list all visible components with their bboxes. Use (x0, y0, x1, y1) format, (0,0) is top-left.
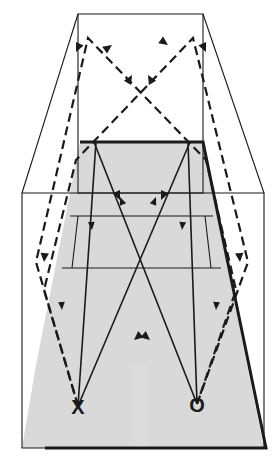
ray-path-diagram: X O (0, 0, 280, 466)
source-marker-o-label: O (189, 394, 205, 416)
arrowhead-triangle (102, 42, 114, 54)
ray-arrowhead (124, 73, 136, 85)
ray-arrowhead (158, 36, 170, 48)
arrowhead-triangle (235, 253, 244, 263)
gray-vertical-band (130, 365, 148, 448)
figure-canvas: X O (0, 0, 280, 466)
ray-arrowhead (235, 253, 244, 263)
shading-layer (22, 142, 264, 448)
perspective-edge-top-right (203, 14, 264, 193)
ray-arrowhead (40, 253, 49, 263)
arrowhead-triangle (40, 253, 49, 263)
perspective-edge-top-left (22, 14, 78, 193)
ray-arrowhead (102, 42, 114, 54)
arrowhead-triangle (124, 73, 136, 85)
arrowhead-triangle (198, 42, 209, 54)
shaded-trapezoid (36, 142, 247, 365)
arrowhead-triangle (158, 36, 170, 48)
ray-arrowhead (198, 42, 209, 54)
source-marker-x-label: X (71, 396, 85, 418)
